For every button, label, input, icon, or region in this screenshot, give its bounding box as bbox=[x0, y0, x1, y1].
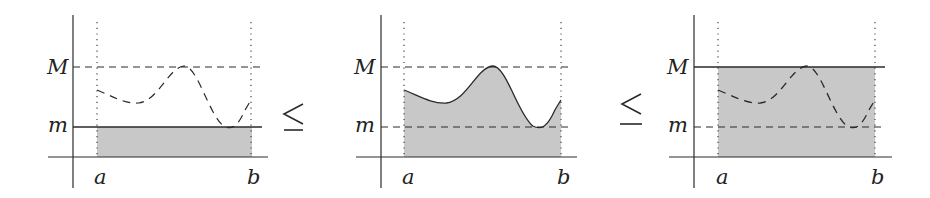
label-M: M bbox=[46, 55, 69, 79]
function-curve bbox=[97, 66, 251, 128]
area-under-curve-fill bbox=[404, 66, 561, 157]
upper-rectangle-fill bbox=[718, 67, 875, 157]
label-b: b bbox=[247, 165, 260, 189]
lower-rectangle-fill bbox=[97, 127, 252, 157]
label-m: m bbox=[355, 113, 375, 137]
integral-bounds-diagram: M m a b M m a b M m bbox=[0, 0, 930, 198]
label-a: a bbox=[402, 165, 415, 189]
label-m: m bbox=[48, 113, 68, 137]
label-M: M bbox=[666, 55, 689, 79]
label-b: b bbox=[871, 165, 884, 189]
panel-integral: M m a b bbox=[353, 15, 577, 189]
panel-upper-bound: M m a b bbox=[666, 15, 892, 189]
label-b: b bbox=[557, 165, 570, 189]
panel-lower-bound: M m a b bbox=[46, 15, 268, 189]
label-m: m bbox=[668, 113, 688, 137]
leq-symbol-1 bbox=[284, 104, 303, 130]
leq-symbol-2 bbox=[620, 94, 642, 124]
label-a: a bbox=[716, 165, 729, 189]
label-M: M bbox=[353, 55, 376, 79]
label-a: a bbox=[94, 165, 107, 189]
